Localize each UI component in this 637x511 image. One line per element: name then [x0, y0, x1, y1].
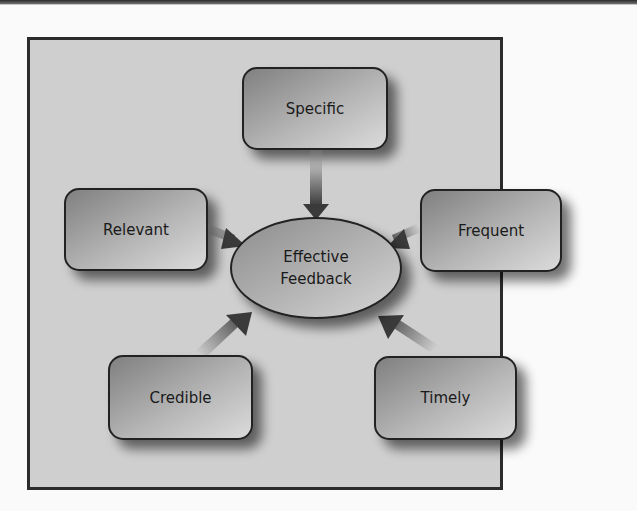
node-box-credible — [109, 356, 252, 439]
arrow-credible — [196, 312, 252, 357]
node-box-timely — [375, 357, 516, 439]
center-ellipse — [231, 218, 401, 318]
arrow-specific — [303, 150, 329, 220]
feedback-diagram — [0, 0, 637, 511]
node-box-frequent — [421, 190, 561, 271]
node-box-specific — [243, 68, 387, 149]
node-box-relevant — [65, 189, 207, 270]
arrow-timely — [378, 315, 438, 352]
